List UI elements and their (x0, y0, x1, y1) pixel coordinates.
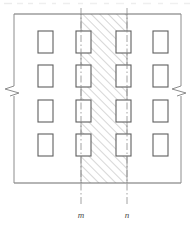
window-opening (153, 134, 168, 156)
window-opening (153, 100, 168, 122)
window-opening (38, 31, 53, 53)
window-opening (116, 65, 131, 87)
centerline-label-n: n (125, 210, 130, 220)
break-symbol-left (5, 86, 19, 96)
window-opening (38, 65, 53, 87)
elevation-drawing-canvas: m n (0, 0, 195, 227)
window-opening (76, 100, 91, 122)
break-right-zigzag (172, 86, 186, 96)
break-symbol-right (172, 86, 186, 96)
window-opening (153, 65, 168, 87)
window-opening (76, 134, 91, 156)
window-opening (116, 100, 131, 122)
window-opening (76, 31, 91, 53)
window-opening (116, 31, 131, 53)
break-left-zigzag (5, 86, 19, 96)
window-opening (76, 65, 91, 87)
centerline-label-m: m (78, 210, 85, 220)
elevation-drawing-svg: m n (0, 0, 195, 227)
window-opening (38, 134, 53, 156)
window-opening (38, 100, 53, 122)
window-opening (116, 134, 131, 156)
window-opening (153, 31, 168, 53)
